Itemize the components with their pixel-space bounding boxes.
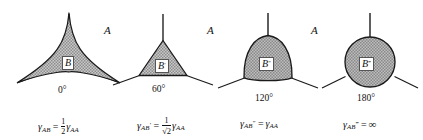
- formula-180deg-equals: =: [359, 119, 369, 130]
- formula-0deg-coefficient-denominator: 2: [61, 126, 65, 136]
- formula-60deg-equals: =: [152, 120, 162, 131]
- boundary-line-right-60deg: [187, 76, 214, 86]
- formula-0deg-rhs-sub: AA: [70, 126, 79, 133]
- formula-180deg-rhs-value: ∞: [369, 118, 377, 130]
- formula-60deg-coefficient-numerator: 1: [162, 117, 171, 125]
- inclusion-label-60deg: B′: [155, 59, 169, 73]
- inclusion-label-prime-60deg: ′: [164, 62, 166, 68]
- formula-120deg: γAB″=γAA: [240, 119, 278, 130]
- formula-0deg-lhs-sub: AB: [42, 126, 51, 133]
- matrix-label-A-1: A: [104, 25, 111, 36]
- formula-180deg: γAB‴=∞: [343, 119, 376, 131]
- boundary-line-right-120deg: [292, 78, 319, 88]
- angle-label-120deg: 120°: [255, 94, 273, 104]
- formula-120deg-lhs-sub: AB: [244, 122, 253, 129]
- matrix-label-A-2: A: [207, 25, 214, 36]
- boundary-line-left-120deg: [218, 78, 245, 88]
- inclusion-label-0deg: B: [62, 56, 74, 70]
- panel-180deg-drawing: [322, 13, 418, 88]
- boundary-line-right-180deg: [395, 77, 419, 89]
- formula-60deg-coefficient: 1√2: [162, 117, 171, 135]
- inclusion-label-prime-180deg: ‴: [368, 60, 371, 66]
- inclusion-label-120deg: B″: [259, 57, 274, 71]
- inclusion-label-prime-120deg: ″: [268, 60, 271, 66]
- panel-60deg-drawing: [113, 14, 213, 85]
- formula-60deg-rhs-sub: AA: [176, 124, 185, 131]
- angle-label-0deg: 0°: [58, 86, 67, 96]
- angle-label-180deg: 180°: [357, 94, 375, 104]
- formula-0deg-equals: =: [51, 121, 61, 132]
- inclusion-label-text-0deg: B: [65, 57, 71, 68]
- formula-120deg-rhs-sub: AA: [269, 122, 278, 129]
- formula-180deg-lhs-sub: AB: [347, 123, 356, 130]
- grain-boundary-wetting-figure: A A A B B′ B″ B‴ 0° 60° 120° 180° γAB=12…: [0, 0, 423, 140]
- matrix-label-A-3: A: [311, 25, 318, 36]
- formula-60deg-lhs-sub: AB: [141, 124, 150, 131]
- angle-label-60deg: 60°: [152, 85, 165, 95]
- boundary-line-left-180deg: [322, 77, 346, 89]
- formula-0deg-coefficient-numerator: 1: [61, 118, 65, 126]
- inclusion-label-180deg: B‴: [359, 57, 374, 71]
- formula-60deg-coefficient-denominator: √2: [162, 125, 171, 135]
- panel-120deg-drawing: [218, 13, 318, 88]
- formula-120deg-equals: =: [256, 118, 266, 129]
- formula-0deg: γAB=12γAA: [38, 118, 79, 136]
- formula-0deg-coefficient: 12: [61, 118, 65, 136]
- formula-60deg: γAB′=1√2γAA: [137, 117, 185, 135]
